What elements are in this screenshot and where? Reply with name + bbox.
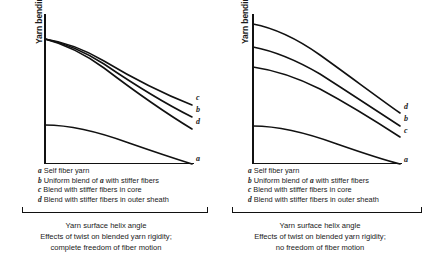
curve-d-right bbox=[253, 24, 400, 113]
chart-panel-left: Yarn bending rigidity c b d a aSelf fibe… bbox=[0, 0, 212, 278]
curve-d-left bbox=[45, 39, 192, 129]
legend-item-c-right: cBlend with stiffer fibers in core bbox=[248, 185, 420, 195]
curve-label-a-left: a bbox=[196, 155, 200, 163]
plot-area-left: Yarn bending rigidity c b d a bbox=[44, 14, 194, 164]
caption-line-x-axis-right: Yarn surface helix angle bbox=[220, 220, 420, 231]
legend-text-b-post: with stiffer fibers bbox=[104, 176, 159, 185]
curve-group-right bbox=[252, 14, 402, 164]
curve-label-c-left: c bbox=[196, 94, 200, 102]
legend-item-d-right: dBlend with stiffer fibers in outer shea… bbox=[248, 195, 420, 205]
legend-text-b-pre: Uniform blend of bbox=[254, 176, 310, 185]
legend-item-b-left: bUniform blend of a with stiffer fibers bbox=[38, 176, 206, 186]
legend-text-a: Self fiber yarn bbox=[254, 166, 300, 175]
legend-text-c: Blend with stiffer fibers in core bbox=[43, 185, 141, 194]
caption-right: Yarn surface helix angle Effects of twis… bbox=[220, 220, 420, 253]
curve-label-a-right: a bbox=[404, 156, 408, 164]
caption-line-2-left: complete freedom of fiber motion bbox=[6, 242, 206, 253]
legend-right: aSelf fiber yarn bUniform blend of a wit… bbox=[248, 166, 420, 204]
legend-text-d: Blend with stiffer fibers in outer sheat… bbox=[254, 195, 379, 204]
figure-container: Yarn bending rigidity c b d a aSelf fibe… bbox=[0, 0, 425, 278]
caption-left: Yarn surface helix angle Effects of twis… bbox=[6, 220, 206, 253]
legend-text-b-pre: Uniform blend of bbox=[44, 176, 100, 185]
y-axis-label-left: Yarn bending rigidity bbox=[34, 0, 44, 44]
curve-label-d-left: d bbox=[196, 118, 200, 126]
legend-text-b-post: with stiffer fibers bbox=[314, 176, 369, 185]
plot-area-right: Yarn bending rigidity d b c a bbox=[252, 14, 402, 164]
caption-rule-right bbox=[232, 212, 422, 213]
legend-item-b-right: bUniform blend of a with stiffer fibers bbox=[248, 176, 420, 186]
curve-group-left bbox=[44, 14, 194, 164]
curve-label-b-right: b bbox=[404, 115, 408, 123]
legend-item-a-left: aSelf fiber yarn bbox=[38, 166, 206, 176]
legend-text-d: Blend with stiffer fibers in outer sheat… bbox=[44, 195, 169, 204]
legend-item-a-right: aSelf fiber yarn bbox=[248, 166, 420, 176]
y-axis-label-right: Yarn bending rigidity bbox=[240, 0, 250, 44]
curve-a-left bbox=[45, 125, 192, 164]
curve-a-right bbox=[253, 126, 400, 164]
curve-label-b-left: b bbox=[196, 106, 200, 114]
chart-panel-right: Yarn bending rigidity d b c a aSelf fibe… bbox=[212, 0, 425, 278]
legend-item-d-left: dBlend with stiffer fibers in outer shea… bbox=[38, 195, 206, 205]
caption-line-x-axis-left: Yarn surface helix angle bbox=[6, 220, 206, 231]
curve-c-left bbox=[45, 39, 192, 105]
curve-label-d-right: d bbox=[404, 103, 408, 111]
curve-label-c-right: c bbox=[404, 127, 408, 135]
caption-line-1-left: Effects of twist on blended yarn rigidit… bbox=[6, 231, 206, 242]
legend-text-a: Self fiber yarn bbox=[44, 166, 90, 175]
caption-line-2-right: no freedom of fiber motion bbox=[220, 242, 420, 253]
legend-left: aSelf fiber yarn bUniform blend of a wit… bbox=[38, 166, 206, 204]
legend-item-c-left: cBlend with stiffer fibers in core bbox=[38, 185, 206, 195]
caption-rule-left bbox=[22, 212, 208, 213]
legend-text-c: Blend with stiffer fibers in core bbox=[253, 185, 351, 194]
caption-line-1-right: Effects of twist on blended yarn rigidit… bbox=[220, 231, 420, 242]
